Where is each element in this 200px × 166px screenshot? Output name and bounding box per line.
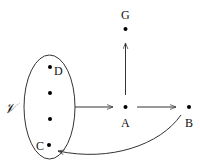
set-v-label: 𝒱 xyxy=(4,100,20,116)
graph-diagram: 𝒱 D C G A B xyxy=(0,0,200,166)
node-g xyxy=(124,27,128,31)
node-d xyxy=(48,65,52,69)
node-set-2 xyxy=(48,91,52,95)
node-b-label: B xyxy=(185,116,193,130)
node-set-3 xyxy=(48,117,52,121)
node-a xyxy=(124,105,128,109)
node-c-label: C xyxy=(36,139,44,153)
edge-b-to-c xyxy=(58,115,181,154)
node-g-label: G xyxy=(121,8,130,22)
node-a-label: A xyxy=(121,116,130,130)
node-c xyxy=(47,143,51,147)
node-b xyxy=(187,105,191,109)
node-d-label: D xyxy=(54,64,63,78)
